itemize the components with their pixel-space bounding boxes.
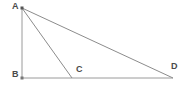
geometry-figure: A B C D [0, 0, 190, 92]
vertex-label-d: D [171, 62, 178, 71]
vertex-label-b: B [12, 70, 19, 79]
vertex-label-a: A [12, 2, 19, 11]
vertex-dot-b [21, 77, 24, 80]
figure-canvas [0, 0, 190, 92]
vertex-dot-a [21, 7, 24, 10]
vertex-label-c: C [76, 65, 83, 74]
